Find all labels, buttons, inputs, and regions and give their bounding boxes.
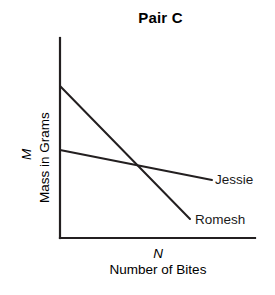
pair-c-figure: Pair C Jessie Romesh M Mass in Grams N N…	[0, 0, 275, 295]
y-axis-symbol: M	[19, 149, 34, 160]
x-axis-label: Number of Bites	[60, 262, 256, 278]
series-label-romesh: Romesh	[195, 212, 245, 227]
series-label-jessie: Jessie	[215, 172, 253, 187]
y-axis-label: Mass in Grams	[37, 112, 52, 203]
x-axis-label-group: N Number of Bites	[60, 246, 256, 278]
series-line-jessie	[60, 150, 212, 180]
series-line-romesh	[60, 86, 190, 219]
x-axis-symbol: N	[60, 246, 256, 262]
